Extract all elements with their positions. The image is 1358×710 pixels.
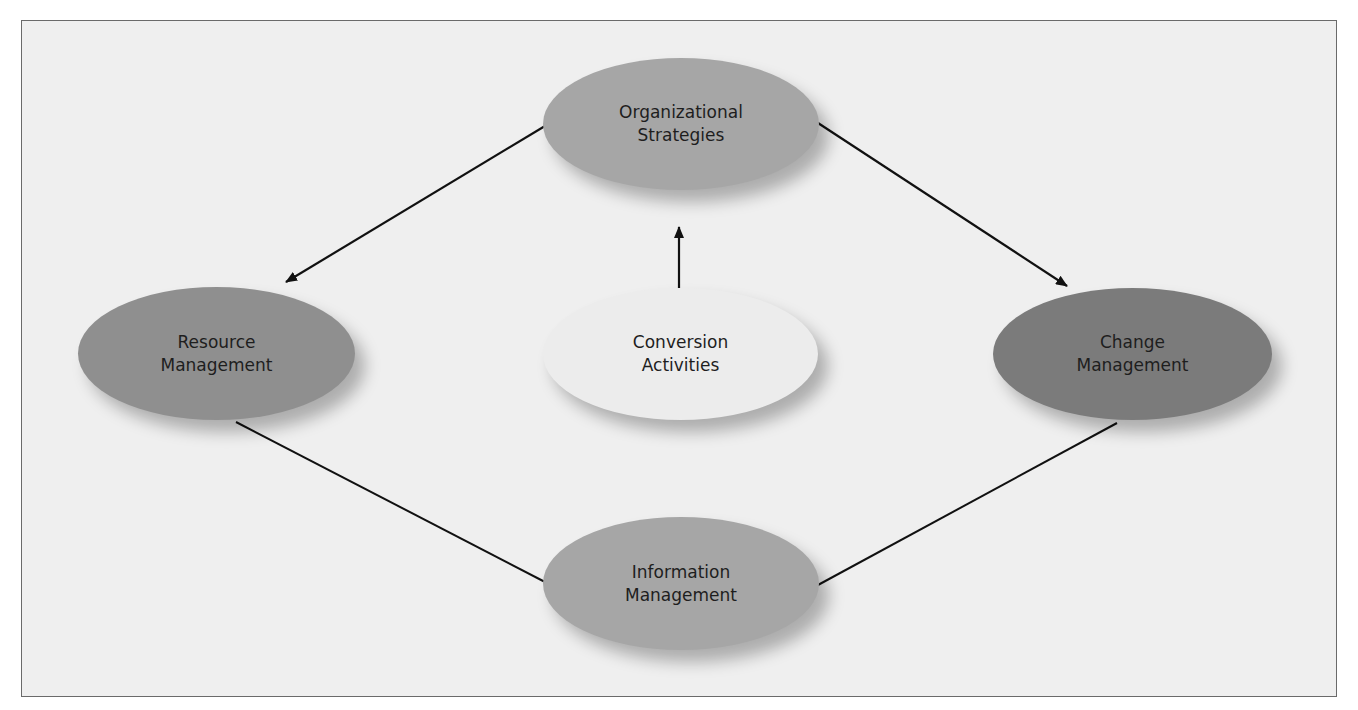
node-label-line1: Resource	[178, 331, 256, 354]
node-information-management: Information Management	[543, 517, 819, 650]
node-label-line1: Organizational	[619, 101, 743, 124]
node-organizational-strategies: Organizational Strategies	[543, 58, 819, 190]
line-resource-to-information	[236, 422, 545, 582]
node-label-line1: Change	[1100, 331, 1165, 354]
node-label-line2: Strategies	[638, 124, 725, 147]
node-label-line1: Conversion	[633, 331, 728, 354]
arrow-organizational-to-change	[818, 123, 1067, 286]
node-label-line2: Activities	[642, 354, 720, 377]
line-change-to-information	[818, 423, 1117, 585]
node-label-line1: Information	[632, 561, 730, 584]
node-change-management: Change Management	[993, 288, 1272, 420]
arrow-organizational-to-resource	[286, 126, 545, 282]
node-resource-management: Resource Management	[78, 287, 355, 420]
node-label-line2: Management	[161, 354, 273, 377]
node-label-line2: Management	[1077, 354, 1189, 377]
node-label-line2: Management	[625, 584, 737, 607]
node-conversion-activities: Conversion Activities	[543, 288, 818, 420]
